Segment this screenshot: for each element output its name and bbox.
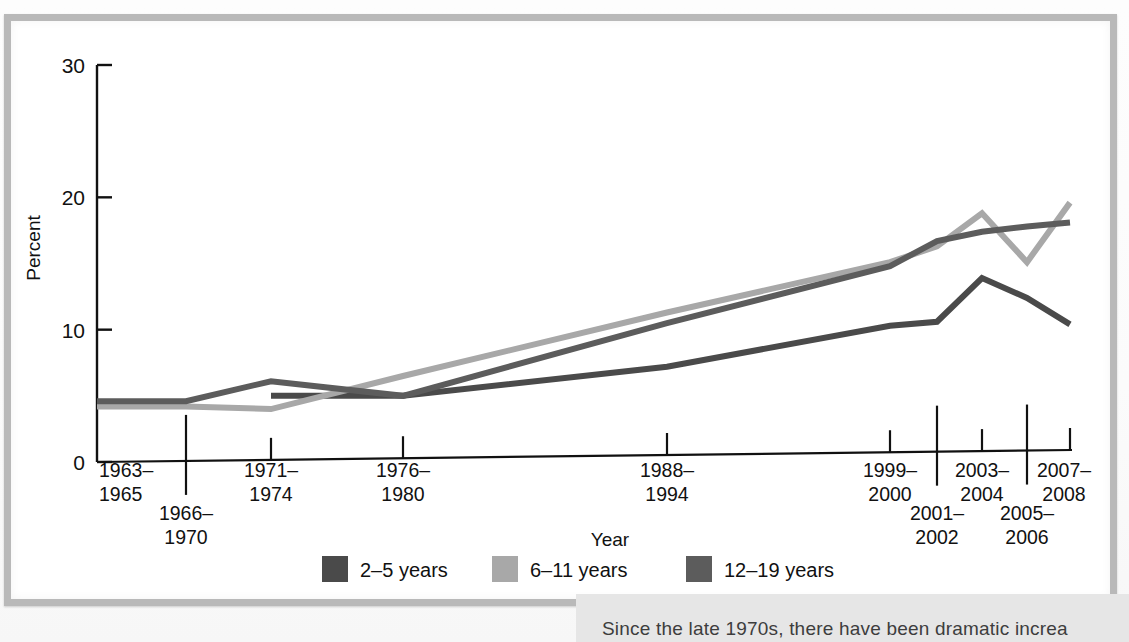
legend-label-2: 6–11 years	[530, 559, 627, 581]
x-axis-tick-label: 1994	[645, 483, 689, 505]
x-axis-tick-label: 1999–	[863, 459, 917, 481]
x-axis-tick-label: 2002	[915, 526, 958, 548]
y-axis-title: Percent	[23, 215, 44, 281]
x-axis-tick-label: 1980	[381, 483, 425, 505]
x-axis-tick-label: 2008	[1042, 483, 1085, 505]
x-axis-tick-label: 1971–	[244, 459, 298, 481]
y-axis-tick-label: 10	[62, 319, 85, 342]
x-axis-tick-label: 2006	[1005, 526, 1048, 548]
x-axis-tick-label: 1974	[249, 483, 293, 505]
x-axis-tick-label: 1976–	[376, 459, 430, 481]
x-axis-tick-label: 1970	[164, 526, 208, 548]
caption-text: Since the late 1970s, there have been dr…	[602, 618, 1068, 640]
x-axis-tick-label: 1966–	[159, 502, 213, 524]
x-axis-tick-label: 2007–	[1037, 459, 1091, 481]
x-axis-title: Year	[591, 529, 630, 550]
page-root: 0102030Percent1963–19651966–19701971–197…	[0, 0, 1129, 642]
caption-block: Since the late 1970s, there have been dr…	[576, 594, 1129, 642]
y-axis-tick-label: 20	[62, 186, 85, 209]
x-axis-tick-label: 2001–	[910, 502, 964, 524]
x-axis-tick-label: 2003–	[955, 459, 1009, 481]
y-axis-tick-label: 30	[62, 54, 85, 77]
legend-label-3: 12–19 years	[724, 559, 834, 581]
x-axis-tick-label: 1963–	[99, 459, 153, 481]
x-axis-tick-label: 2000	[868, 483, 912, 505]
x-axis-tick-label: 1988–	[640, 459, 694, 481]
x-axis-tick-label: 1965	[99, 483, 143, 505]
legend-label-1: 2–5 years	[360, 559, 448, 581]
legend-swatch-3	[686, 556, 712, 582]
legend-swatch-2	[492, 556, 518, 582]
chart-plot-area: 0102030Percent1963–19651966–19701971–197…	[0, 0, 1129, 642]
x-axis-tick-label: 2005–	[1000, 502, 1054, 524]
x-axis-tick-label: 2004	[960, 483, 1004, 505]
line-chart: 0102030Percent1963–19651966–19701971–197…	[0, 0, 1129, 642]
y-axis-tick-label: 0	[73, 451, 85, 474]
legend-swatch-1	[322, 556, 348, 582]
